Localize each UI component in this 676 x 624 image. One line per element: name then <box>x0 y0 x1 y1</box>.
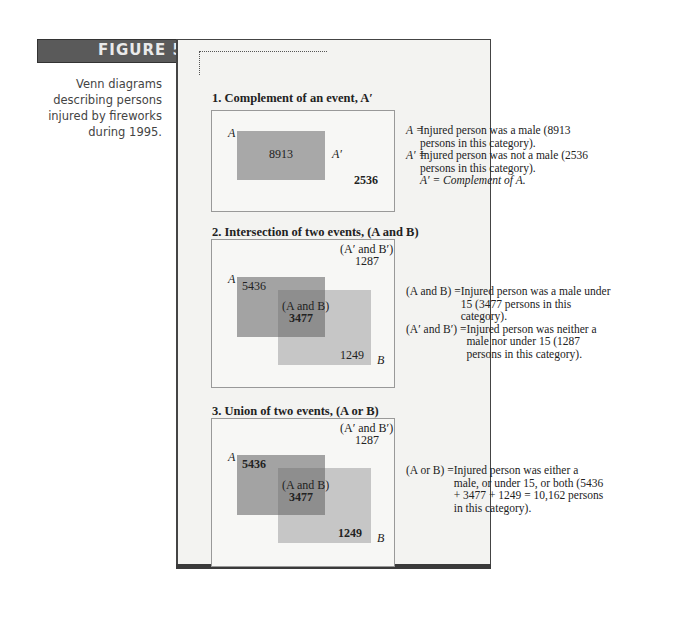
legend-key: A = <box>406 124 420 149</box>
label-A: A <box>228 450 235 465</box>
legend-section-3: (A or B) =Injured person was either a ma… <box>406 464 606 514</box>
value-A-only: 5436 <box>242 457 266 472</box>
value-neither: 1287 <box>355 254 379 269</box>
legend-key: (A′ and B′) = <box>406 323 466 361</box>
value-A-and-B: 3477 <box>289 311 313 326</box>
value-inside-A: 8913 <box>269 147 293 162</box>
dotted-leader-vertical <box>199 51 200 75</box>
legend-text: Injured person was a male under 15 (3477… <box>461 285 616 323</box>
value-outside-A: 2536 <box>354 173 378 188</box>
section-2-title: 2. Intersection of two events, (A and B) <box>212 225 419 240</box>
venn-union-box: A 5436 (A and B) 3477 1249 B (A′ and B′)… <box>211 418 395 567</box>
figure-caption: Venn diagrams describing persons injured… <box>40 76 162 140</box>
dotted-leader-horizontal <box>199 51 327 52</box>
legend-key: A′ = <box>406 149 420 174</box>
venn-intersection-box: A 5436 (A and B) 3477 1249 B (A′ and B′)… <box>211 239 395 388</box>
legend-text: Injured person was not a male (2536 pers… <box>420 149 606 174</box>
legend-key: (A and B) = <box>406 285 461 323</box>
value-B-only: 1249 <box>338 526 362 541</box>
legend-text: Injured person was either a male, or und… <box>454 464 606 514</box>
label-B: B <box>377 531 384 546</box>
label-A-prime: A′ <box>332 147 342 162</box>
label-B: B <box>377 353 384 368</box>
legend-text: Injured person was neither a male nor un… <box>466 323 616 361</box>
legend-section-2: (A and B) =Injured person was a male und… <box>406 285 616 360</box>
section-3-title: 3. Union of two events, (A or B) <box>212 404 379 419</box>
legend-key: (A or B) = <box>406 464 454 514</box>
legend-text: A′ = Complement of A. <box>420 174 526 187</box>
value-B-only: 1249 <box>340 348 364 363</box>
label-A: A <box>228 272 235 287</box>
value-A-only: 5436 <box>242 279 266 294</box>
section-1-title: 1. Complement of an event, A′ <box>212 91 373 106</box>
legend-section-1: A =Injured person was a male (8913 perso… <box>406 124 606 187</box>
value-A-and-B: 3477 <box>289 490 313 505</box>
venn-complement-box: A 8913 A′ 2536 <box>211 110 395 212</box>
value-neither: 1287 <box>355 433 379 448</box>
label-A: A <box>228 126 235 141</box>
legend-text: Injured person was a male (8913 persons … <box>420 124 606 149</box>
